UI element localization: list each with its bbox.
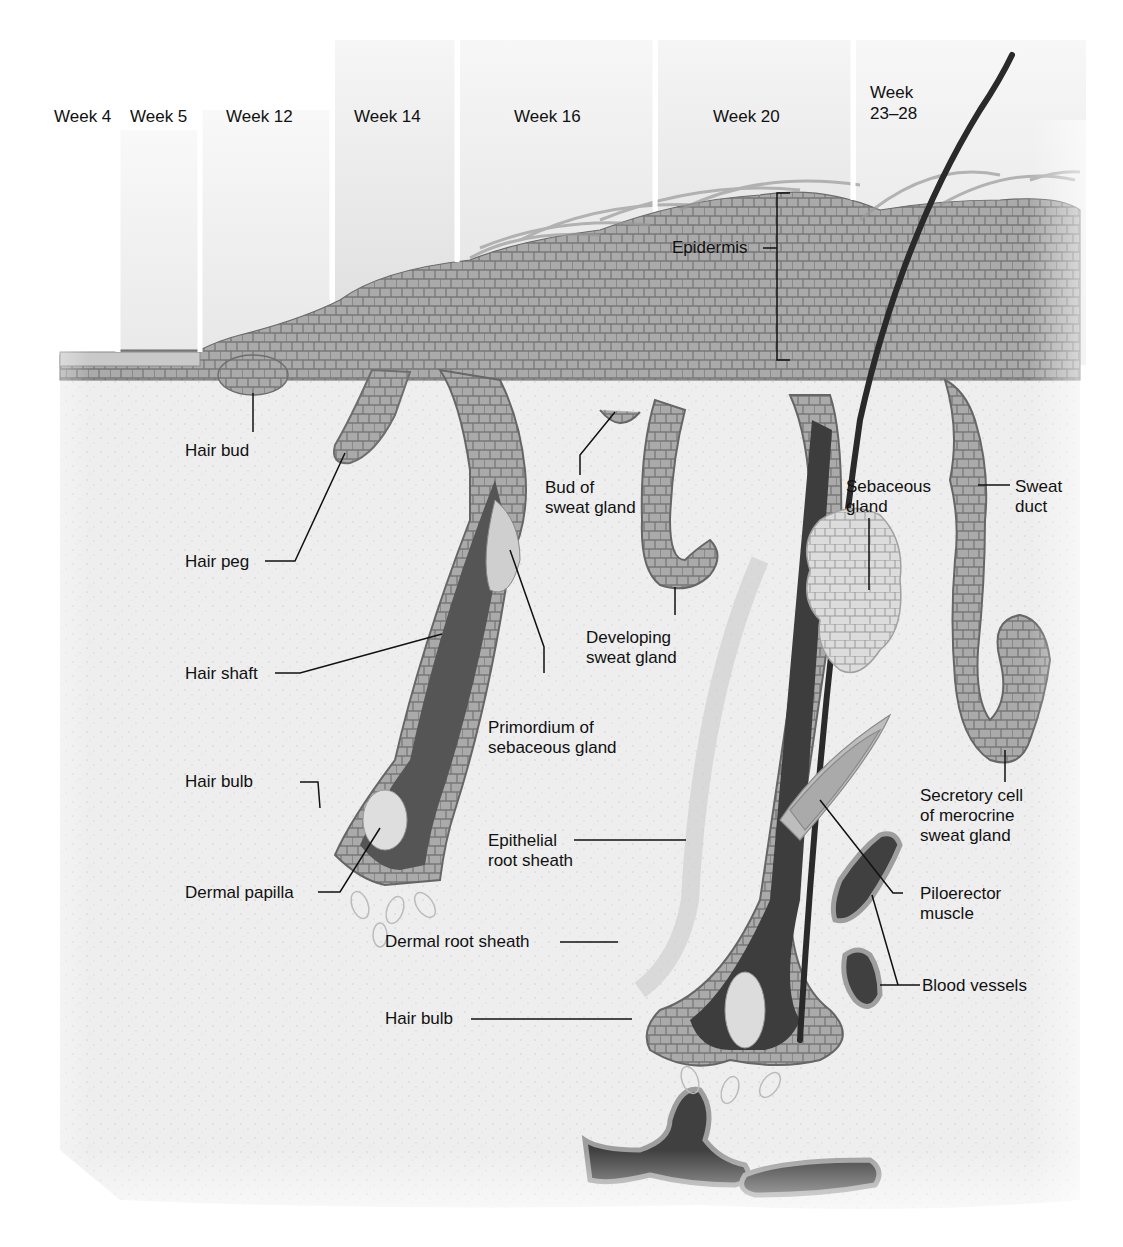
label-line: Piloerector [920, 884, 1001, 904]
stage-label-week-23-28: Week 23–28 [870, 82, 917, 124]
label-hair-peg: Hair peg [185, 552, 249, 572]
label-line: Sweat [1015, 477, 1062, 497]
label-line: sebaceous gland [488, 738, 617, 758]
hair-bud-structure [218, 355, 288, 395]
label-epithelial-root-sheath: Epithelial root sheath [488, 831, 573, 871]
label-line: muscle [920, 904, 1001, 924]
label-line: Primordium of [488, 718, 617, 738]
label-line: Bud of [545, 478, 636, 498]
skin-development-diagram: Week 4 Week 5 Week 12 Week 14 Week 16 We… [0, 0, 1123, 1247]
dermal-papilla-right [725, 972, 765, 1048]
label-dermal-papilla: Dermal papilla [185, 883, 294, 903]
label-blood-vessels: Blood vessels [922, 976, 1027, 996]
label-primordium-sebaceous-gland: Primordium of sebaceous gland [488, 718, 617, 758]
label-epidermis: Epidermis [672, 238, 748, 258]
stage-label-week-12: Week 12 [226, 106, 293, 127]
label-line: duct [1015, 497, 1062, 517]
stage-label-line-2: 23–28 [870, 103, 917, 124]
stage-label-line-1: Week [870, 82, 917, 103]
label-hair-bud: Hair bud [185, 441, 249, 461]
diagram-illustration [0, 0, 1123, 1247]
label-line: sweat gland [545, 498, 636, 518]
label-piloerector-muscle: Piloerector muscle [920, 884, 1001, 924]
label-secretory-cell: Secretory cell of merocrine sweat gland [920, 786, 1023, 846]
label-hair-shaft: Hair shaft [185, 664, 258, 684]
stage-label-week-20: Week 20 [713, 106, 780, 127]
label-hair-bulb-left: Hair bulb [185, 772, 253, 792]
label-line: sweat gland [920, 826, 1023, 846]
label-line: sweat gland [586, 648, 677, 668]
label-sebaceous-gland: Sebaceous gland [846, 477, 931, 517]
dermal-papilla-left [363, 790, 407, 850]
label-hair-bulb-right: Hair bulb [385, 1009, 453, 1029]
label-developing-sweat-gland: Developing sweat gland [586, 628, 677, 668]
label-line: of merocrine [920, 806, 1023, 826]
label-line: Developing [586, 628, 677, 648]
label-line: Epithelial [488, 831, 573, 851]
label-line: gland [846, 497, 931, 517]
label-dermal-root-sheath: Dermal root sheath [385, 932, 530, 952]
stage-label-week-5: Week 5 [130, 106, 187, 127]
label-line: root sheath [488, 851, 573, 871]
label-sweat-duct: Sweat duct [1015, 477, 1062, 517]
label-line: Secretory cell [920, 786, 1023, 806]
stage-label-week-16: Week 16 [514, 106, 581, 127]
label-line: Sebaceous [846, 477, 931, 497]
label-bud-of-sweat-gland: Bud of sweat gland [545, 478, 636, 518]
stage-label-week-4: Week 4 [54, 106, 111, 127]
stage-label-week-14: Week 14 [354, 106, 421, 127]
